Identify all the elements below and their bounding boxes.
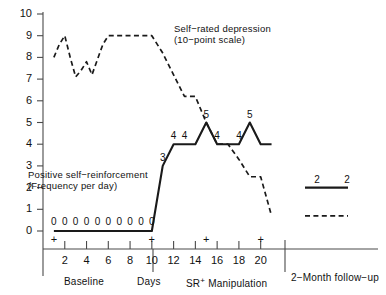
y-axis-tick-label: 6 [14,94,32,106]
y-axis-tick-label: 0 [14,224,32,236]
x-axis-tick-label: 12 [164,254,184,266]
y-axis-tick-label: 4 [14,137,32,149]
reinforcement-annotation: Positive self−reinforcement (Frequency p… [28,169,148,191]
x-axis-tick-label: 8 [120,254,140,266]
depression-annotation-line1: Self−rated depression [174,23,271,34]
treatment-value-label: 5 [199,109,213,120]
x-axis-ticks [65,241,261,249]
x-axis-tick-label: 6 [98,254,118,266]
phase-label-manipulation-prefix: SR [186,278,200,289]
y-axis-tick-label: 1 [14,202,32,214]
phase-label-manipulation: SR+ Manipulation [186,276,267,289]
x-axis-tick-label: 4 [77,254,97,266]
treatment-value-label: 5 [243,109,257,120]
event-marker-plus: + [201,234,211,244]
y-axis-tick-label: 5 [14,116,32,128]
treatment-value-label: 3 [156,152,170,163]
phase-label-followup: 2−Month follow−up [291,272,379,283]
depression-annotation-line2: (10−point scale) [174,34,271,45]
y-axis-tick-label: 10 [14,7,32,19]
x-axis-tick-label: 16 [207,254,227,266]
followup-value-label: 2 [310,174,324,185]
baseline-zero-label: 0 [145,216,159,227]
y-axis-tick-label: 8 [14,50,32,62]
treatment-value-label: 4 [232,130,246,141]
event-marker-plus: + [256,234,266,244]
phase-label-baseline: Baseline [64,276,104,287]
y-axis-tick-label: 9 [14,29,32,41]
x-axis-tick-label: 2 [55,254,75,266]
event-marker-plus: + [147,234,157,244]
y-axis-ticks [37,14,43,231]
treatment-value-label: 4 [177,130,191,141]
event-marker-plus: + [49,234,59,244]
reinforcement-annotation-line2: (Frequency per day) [28,180,148,191]
reinforcement-annotation-line1: Positive self−reinforcement [28,169,148,180]
x-axis-tick-label: 20 [251,254,271,266]
x-axis-title: Days [137,276,161,287]
treatment-value-label: 4 [210,130,224,141]
y-axis-tick-label: 7 [14,72,32,84]
chart-container: 012345678910 2468101214161820 ++++ 00000… [0,0,386,295]
phase-label-manipulation-superscript: + [200,276,205,285]
phase-label-manipulation-suffix: Manipulation [208,278,267,289]
followup-value-label: 2 [340,174,354,185]
depression-annotation: Self−rated depression (10−point scale) [174,23,271,45]
x-axis-tick-label: 10 [142,254,162,266]
x-axis-tick-label: 14 [185,254,205,266]
x-axis-tick-label: 18 [229,254,249,266]
